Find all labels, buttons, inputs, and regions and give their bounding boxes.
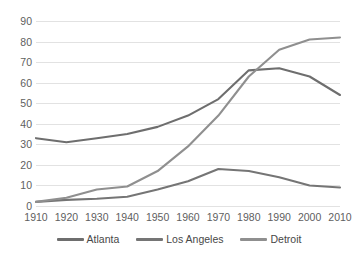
- legend-item-los-angeles[interactable]: Los Angeles: [136, 234, 223, 245]
- y-tick-label: 60: [2, 78, 32, 88]
- y-tick-label: 40: [2, 119, 32, 129]
- x-tick-label: 1940: [110, 211, 144, 223]
- series-line-los-angeles: [36, 169, 340, 202]
- x-tick-label: 1930: [80, 211, 114, 223]
- x-tick-label: 1960: [171, 211, 205, 223]
- y-tick-label: 20: [2, 160, 32, 170]
- legend-label: Atlanta: [87, 234, 120, 245]
- y-tick-label: 0: [2, 201, 32, 211]
- y-axis: 0102030405060708090: [0, 0, 32, 264]
- series-line-detroit: [36, 37, 340, 201]
- plot-area: [36, 21, 340, 206]
- y-tick-label: 10: [2, 180, 32, 190]
- legend: AtlantaLos AngelesDetroit: [0, 234, 358, 245]
- legend-label: Los Angeles: [166, 234, 223, 245]
- x-tick-label: 1990: [262, 211, 296, 223]
- line-chart: 0102030405060708090 19101920193019401950…: [0, 0, 358, 264]
- legend-swatch-icon: [136, 238, 163, 240]
- x-tick-label: 1920: [49, 211, 83, 223]
- series-container: [36, 21, 340, 206]
- series-line-atlanta: [36, 68, 340, 142]
- gridline: [36, 206, 340, 207]
- legend-label: Detroit: [270, 234, 301, 245]
- legend-swatch-icon: [240, 238, 267, 240]
- y-tick-label: 90: [2, 16, 32, 26]
- x-tick-label: 2000: [293, 211, 327, 223]
- x-axis: 1910192019301940195019601970198019902000…: [36, 211, 340, 227]
- legend-swatch-icon: [57, 238, 84, 240]
- y-tick-label: 70: [2, 57, 32, 67]
- x-tick-label: 2010: [323, 211, 357, 223]
- legend-item-detroit[interactable]: Detroit: [240, 234, 301, 245]
- x-tick-label: 1950: [141, 211, 175, 223]
- legend-item-atlanta[interactable]: Atlanta: [57, 234, 120, 245]
- x-tick-label: 1910: [19, 211, 53, 223]
- y-tick-label: 30: [2, 139, 32, 149]
- y-tick-label: 80: [2, 37, 32, 47]
- x-tick-label: 1980: [232, 211, 266, 223]
- x-tick-label: 1970: [201, 211, 235, 223]
- y-tick-label: 50: [2, 98, 32, 108]
